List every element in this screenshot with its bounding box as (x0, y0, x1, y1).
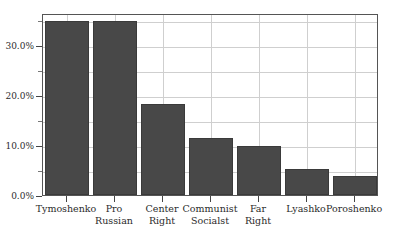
y-axis-tick-mark (36, 146, 42, 147)
x-axis-tick-label-line1: Tymoshenko (36, 203, 97, 214)
bar[interactable] (333, 176, 376, 195)
bar-chart: 0.0%10.0%20.0%30.0% TymoshenkoProRussian… (0, 0, 396, 247)
y-axis-minor-tick-mark (38, 21, 42, 22)
x-axis-tick-label-line1: Lyashko (286, 203, 326, 214)
y-axis-tick-mark (36, 96, 42, 97)
x-axis-tick-label: CommunistSocialst (183, 203, 238, 227)
bar[interactable] (141, 104, 184, 196)
x-axis-tick-mark (162, 196, 163, 202)
bar[interactable] (93, 21, 136, 195)
y-axis-tick-label: 30.0% (5, 41, 34, 51)
x-axis-tick-mark (258, 196, 259, 202)
x-axis-tick-mark (114, 196, 115, 202)
x-axis-tick-label: ProRussian (95, 203, 133, 227)
gridline-vertical (355, 15, 356, 195)
bar[interactable] (45, 21, 88, 195)
bar[interactable] (285, 169, 328, 195)
x-axis-tick-label-line1: Pro (106, 203, 123, 214)
x-axis-tick-label-line2: Right (245, 215, 271, 227)
bar[interactable] (237, 146, 280, 195)
x-axis-tick-label-line1: Far (250, 203, 266, 214)
gridline-vertical (307, 15, 308, 195)
y-axis-minor-tick-mark (38, 171, 42, 172)
y-axis-tick-mark (36, 196, 42, 197)
x-axis-tick-label: Poroshenko (326, 203, 382, 215)
x-axis-tick-label-line1: Poroshenko (326, 203, 382, 214)
plot-inner (43, 15, 377, 195)
x-axis-tick-mark (354, 196, 355, 202)
y-axis-tick-label: 10.0% (5, 141, 34, 151)
bar[interactable] (189, 138, 232, 195)
y-axis-tick-label: 0.0% (11, 191, 34, 201)
x-axis-tick-mark (210, 196, 211, 202)
x-axis-tick-label: CenterRight (146, 203, 179, 227)
plot-area (42, 14, 378, 196)
y-axis-tick-label: 20.0% (5, 91, 34, 101)
x-axis-tick-label-line2: Socialst (183, 215, 238, 227)
y-axis-minor-tick-mark (38, 71, 42, 72)
x-axis-tick-label-line1: Center (146, 203, 179, 214)
x-axis-tick-label-line1: Communist (183, 203, 238, 214)
y-axis-minor-tick-mark (38, 121, 42, 122)
y-axis-tick-labels: 0.0%10.0%20.0%30.0% (0, 0, 34, 247)
x-axis-tick-label: FarRight (245, 203, 271, 227)
y-axis-tick-mark (36, 46, 42, 47)
x-axis-tick-mark (66, 196, 67, 202)
x-axis-tick-label: Lyashko (286, 203, 326, 215)
x-axis-tick-mark (306, 196, 307, 202)
x-axis-tick-label: Tymoshenko (36, 203, 97, 215)
x-axis-tick-label-line2: Russian (95, 215, 133, 227)
x-axis-tick-label-line2: Right (146, 215, 179, 227)
